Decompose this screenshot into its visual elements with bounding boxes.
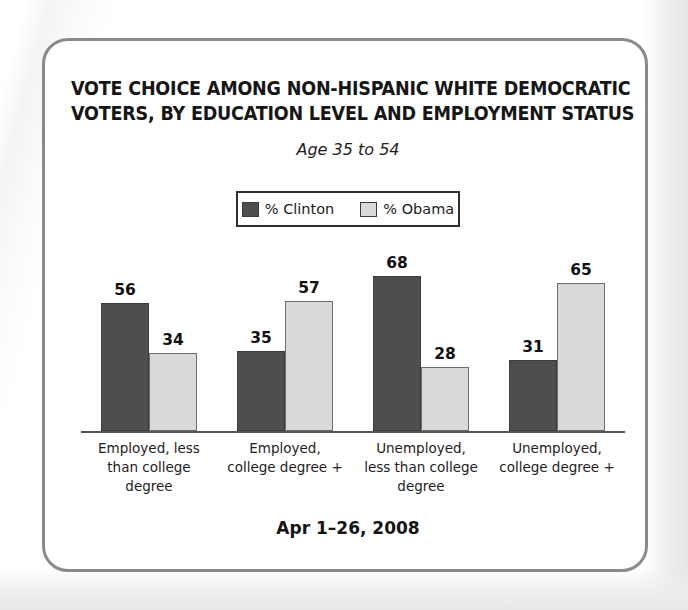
bar-wrap: 31 — [509, 360, 557, 431]
category-label: Employed, lessthan collegedegree — [81, 439, 217, 496]
category-label-line: degree — [356, 477, 486, 496]
chart-legend: % Clinton % Obama — [236, 191, 460, 227]
category-label-line: Unemployed, — [492, 439, 622, 458]
legend-item-obama[interactable]: % Obama — [360, 201, 454, 217]
bar-value-label: 28 — [421, 345, 469, 363]
bar-wrap: 56 — [101, 303, 149, 431]
chart-title: VOTE CHOICE AMONG NON-HISPANIC WHITE DEM… — [71, 77, 625, 127]
category-label: Employed,college degree + — [217, 439, 353, 496]
category-label-line: degree — [84, 477, 214, 496]
category-label-line: Employed, less — [84, 439, 214, 458]
category-label-line: less than college — [356, 458, 486, 477]
category-label-line: Employed, — [220, 439, 350, 458]
bar-value-label: 31 — [509, 338, 557, 356]
bar-wrap: 35 — [237, 351, 285, 431]
chart-card: VOTE CHOICE AMONG NON-HISPANIC WHITE DEM… — [42, 38, 648, 572]
bar-value-label: 65 — [557, 261, 605, 279]
bar-value-label: 34 — [149, 331, 197, 349]
bar-group: 3557 — [217, 253, 353, 431]
legend-label-clinton: % Clinton — [265, 201, 335, 217]
legend-label-obama: % Obama — [383, 201, 454, 217]
bar-wrap: 65 — [557, 283, 605, 431]
bar-value-label: 68 — [373, 254, 421, 272]
bar-wrap: 68 — [373, 276, 421, 431]
category-label-line: Unemployed, — [356, 439, 486, 458]
legend-item-clinton[interactable]: % Clinton — [242, 201, 335, 217]
x-axis-line — [81, 431, 625, 433]
page-backdrop-right-shade — [642, 0, 688, 610]
bar-wrap: 28 — [421, 367, 469, 431]
bar-group: 6828 — [353, 253, 489, 431]
chart-title-line-1: VOTE CHOICE AMONG NON-HISPANIC WHITE DEM… — [71, 77, 625, 102]
page-backdrop-bottom-shade — [0, 566, 688, 610]
bar-groups: 5634355768283165 — [81, 253, 625, 431]
bar-wrap: 57 — [285, 301, 333, 431]
bar-clinton[interactable] — [509, 360, 557, 431]
clinton-swatch-icon — [242, 202, 259, 217]
category-label-line: college degree + — [492, 458, 622, 477]
bar-clinton[interactable] — [101, 303, 149, 431]
chart-subtitle: Age 35 to 54 — [71, 140, 625, 159]
chart-footer-date: Apr 1–26, 2008 — [71, 518, 625, 538]
bar-clinton[interactable] — [237, 351, 285, 431]
obama-swatch-icon — [360, 202, 377, 217]
category-label-line: college degree + — [220, 458, 350, 477]
bar-value-label: 56 — [101, 281, 149, 299]
bar-obama[interactable] — [557, 283, 605, 431]
bar-wrap: 34 — [149, 353, 197, 431]
plot-area: 5634355768283165 — [65, 237, 631, 433]
bar-value-label: 57 — [285, 279, 333, 297]
bar-obama[interactable] — [421, 367, 469, 431]
bar-obama[interactable] — [285, 301, 333, 431]
category-label-line: than college — [84, 458, 214, 477]
chart-title-line-2: VOTERS, BY EDUCATION LEVEL AND EMPLOYMEN… — [71, 102, 625, 127]
bar-clinton[interactable] — [373, 276, 421, 431]
bar-group: 5634 — [81, 253, 217, 431]
bar-group: 3165 — [489, 253, 625, 431]
category-label: Unemployed,college degree + — [489, 439, 625, 496]
bar-obama[interactable] — [149, 353, 197, 431]
bar-value-label: 35 — [237, 329, 285, 347]
category-label: Unemployed,less than collegedegree — [353, 439, 489, 496]
category-axis-labels: Employed, lessthan collegedegreeEmployed… — [81, 439, 625, 496]
